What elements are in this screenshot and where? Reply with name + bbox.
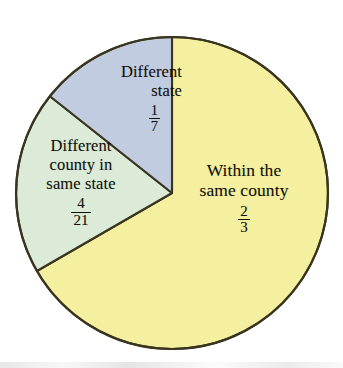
slice-fraction-county-wrap: 4 21 [14,196,148,228]
slice-fraction-within-numerator: 2 [238,204,250,220]
slice-label-different-county-same-state: Different county in same state 4 21 [14,136,148,228]
slice-label-state-line1: Different [76,62,182,81]
scan-artifact-strip [0,362,343,368]
slice-label-county-line2: county in [14,155,148,174]
slice-label-county-line1: Different [14,136,148,155]
slice-fraction-within: 2 3 [238,204,250,236]
slice-fraction-county-denominator: 21 [71,213,90,228]
slice-fraction-state-wrap: 1 7 [76,103,182,134]
slice-label-different-state: Different state 1 7 [76,62,182,134]
slice-fraction-within-denominator: 3 [238,220,250,235]
slice-fraction-state-denominator: 7 [149,119,160,134]
slice-label-state-line2: state [76,81,182,100]
slice-fraction-within-wrap: 2 3 [178,204,310,236]
pie-chart-figure: Within the same county 2 3 Different cou… [0,0,343,368]
slice-label-within-line2: same county [178,180,310,200]
slice-label-county-line3: same state [14,174,148,193]
slice-fraction-state: 1 7 [149,103,160,134]
slice-label-within-same-county: Within the same county 2 3 [178,160,310,235]
slice-fraction-state-numerator: 1 [149,103,160,119]
slice-label-within-line1: Within the [178,160,310,180]
slice-fraction-county: 4 21 [71,196,90,228]
slice-fraction-county-numerator: 4 [71,196,90,212]
